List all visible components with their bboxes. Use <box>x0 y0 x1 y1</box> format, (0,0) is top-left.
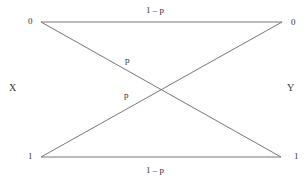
output-0-label: 0 <box>291 18 296 27</box>
edge-1-to-1-label: 1 – p <box>146 166 164 175</box>
input-1-label: 1 <box>28 152 33 161</box>
output-variable-label: Y <box>287 83 294 93</box>
edge-0-to-1-label: p <box>125 56 130 65</box>
output-1-label: 1 <box>294 152 299 161</box>
input-0-label: 0 <box>28 17 33 26</box>
channel-diagram <box>0 0 307 184</box>
edge-1-to-0-label: p <box>124 91 129 100</box>
input-variable-label: X <box>9 83 16 93</box>
edge-0-to-0-label: 1 – p <box>146 6 164 15</box>
